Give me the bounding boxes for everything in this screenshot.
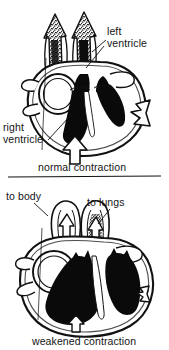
panel-weakened-contraction xyxy=(16,201,153,337)
label-right-ventricle-line2: ventricle xyxy=(3,133,43,145)
label-to-body: to body xyxy=(6,190,41,202)
label-left-ventricle-line2: ventricle xyxy=(107,37,147,49)
caption-weakened-contraction: weakened contraction xyxy=(32,335,136,347)
label-right-ventricle-line1: right xyxy=(3,121,43,133)
heart-contraction-figure: left ventricle right ventricle to body t… xyxy=(0,0,169,350)
label-left-ventricle-line1: left xyxy=(107,25,147,37)
label-to-lungs: to lungs xyxy=(87,196,125,208)
caption-normal-contraction: normal contraction xyxy=(38,161,126,173)
label-right-ventricle: right ventricle xyxy=(3,121,43,145)
panel-divider xyxy=(8,176,161,177)
leader-line-to-body xyxy=(34,203,48,216)
inferior-vena-cava-normal xyxy=(23,104,40,116)
heart-diagram-svg xyxy=(0,0,169,350)
right-atrium-inner-normal xyxy=(44,79,73,110)
label-left-ventricle: left ventricle xyxy=(107,25,147,49)
